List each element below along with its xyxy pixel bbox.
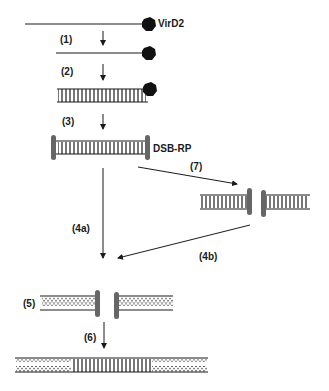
host-dsdna-break — [200, 188, 310, 217]
step-6-label: (6) — [84, 333, 96, 343]
ssdna-virD2-initial — [25, 17, 156, 31]
dsb-rp-label: DSB-RP — [153, 144, 191, 154]
dsdna-dsb-rp — [51, 135, 150, 160]
dsdna-virD2 — [57, 82, 157, 102]
repair-cap-right — [261, 190, 266, 217]
step-3-label: (3) — [62, 117, 74, 127]
step-1-label: (1) — [60, 35, 72, 45]
step-7-label: (7) — [190, 162, 202, 172]
arrow-step-4b — [118, 225, 250, 258]
step-2-label: (2) — [61, 67, 73, 77]
broken-dsdna-with-repair — [40, 290, 173, 319]
virD2-protein-icon — [143, 82, 157, 96]
step-5-label: (5) — [23, 299, 35, 309]
dsb-rp-cap-left — [51, 135, 56, 160]
ssdna-virD2 — [56, 46, 156, 60]
repair-cap-right — [114, 292, 119, 319]
virD2-label: VirD2 — [158, 19, 184, 29]
virD2-protein-icon — [142, 46, 156, 60]
pathway-diagram — [0, 0, 329, 391]
step-4b-label: (4b) — [199, 252, 217, 262]
step-4a-label: (4a) — [72, 224, 90, 234]
repair-cap-left — [247, 188, 252, 215]
dsb-rp-cap-right — [145, 135, 150, 160]
virD2-protein-icon — [142, 17, 156, 31]
arrow-step-7 — [138, 167, 237, 184]
repair-cap-left — [95, 290, 100, 317]
integrated-dna — [15, 358, 208, 372]
